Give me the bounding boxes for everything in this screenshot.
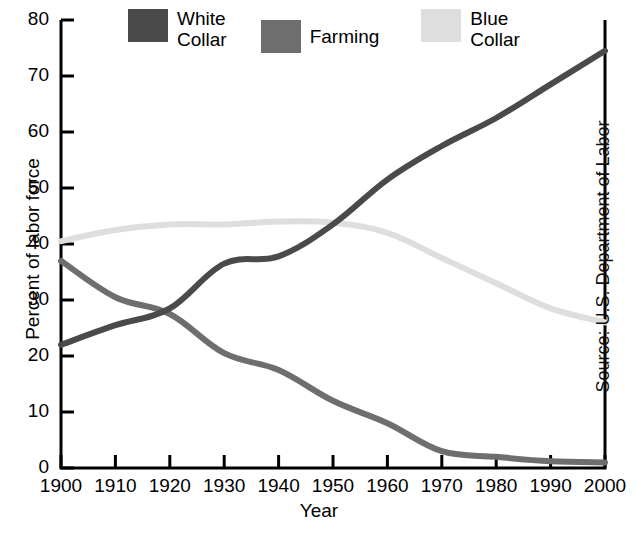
- source-annotation: Source: U.S. Department of Labor: [593, 92, 614, 422]
- x-tick-label: 1900: [34, 475, 88, 497]
- legend-label-white-collar: White Collar: [177, 8, 227, 50]
- y-tick-label: 50: [9, 176, 49, 198]
- legend-swatch-icon-white-collar: [128, 9, 168, 42]
- x-tick-label: 1910: [88, 475, 142, 497]
- x-tick-label: 1990: [524, 475, 578, 497]
- x-tick-label: 1960: [360, 475, 414, 497]
- x-tick-label: 1930: [197, 475, 251, 497]
- y-tick-label: 10: [9, 400, 49, 422]
- legend-swatch-icon-blue-collar: [421, 9, 461, 42]
- x-tick-label: 1950: [306, 475, 360, 497]
- legend-entry-white-collar: White Collar: [128, 8, 227, 50]
- x-tick-label: 1940: [252, 475, 306, 497]
- legend-entry-farming: Farming: [261, 19, 380, 53]
- x-axis-title: Year: [0, 500, 638, 522]
- y-tick-label: 70: [9, 64, 49, 86]
- x-tick-label: 1980: [469, 475, 523, 497]
- y-tick-label: 20: [9, 344, 49, 366]
- y-tick-label: 30: [9, 288, 49, 310]
- y-tick-label: 40: [9, 232, 49, 254]
- series-line-white-collar: [61, 51, 605, 345]
- y-tick-label: 60: [9, 120, 49, 142]
- legend-entry-blue-collar: Blue Collar: [421, 8, 520, 50]
- plot-area: [0, 0, 638, 537]
- legend-label-farming: Farming: [310, 26, 380, 47]
- series-line-farming: [61, 261, 605, 463]
- x-tick-label: 1920: [143, 475, 197, 497]
- y-tick-label: 80: [9, 8, 49, 30]
- legend-swatch-icon-farming: [261, 20, 301, 53]
- legend-label-blue-collar: Blue Collar: [470, 8, 520, 50]
- x-tick-label: 1970: [415, 475, 469, 497]
- x-tick-label: 2000: [578, 475, 632, 497]
- chart-legend: White Collar Farming Blue Collar: [128, 8, 520, 53]
- chart-figure: White Collar Farming Blue Collar Percent…: [0, 0, 638, 537]
